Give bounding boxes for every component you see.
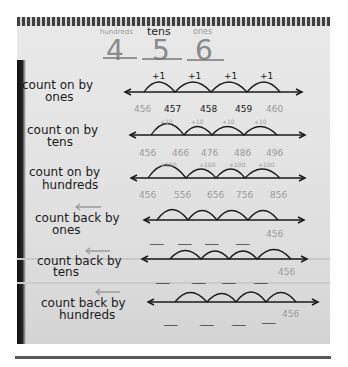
jump-label: +10 xyxy=(222,118,235,125)
jump-label: +10 xyxy=(191,118,204,125)
value: 457 xyxy=(164,104,181,114)
jump-arcs xyxy=(157,210,278,221)
row-label: tens xyxy=(47,135,73,149)
value: 456 xyxy=(282,309,299,319)
row-count-on-ones: count on by ones +1 +1 +1 +1 456 457 458… xyxy=(22,71,302,114)
row-label: count on by xyxy=(29,165,100,179)
blank: ___ xyxy=(177,235,192,245)
row-count-on-hundreds: count on by hundreds +100 +100 +100 +100… xyxy=(29,161,305,200)
blank: ___ xyxy=(149,235,164,245)
value: 656 xyxy=(207,190,224,200)
row-label: ones xyxy=(52,223,81,237)
jump-label: +10 xyxy=(160,118,173,125)
value: 456 xyxy=(266,229,283,239)
value: 486 xyxy=(234,148,251,158)
row-count-on-tens: count on by tens +10 +10 +10 +10 456 466… xyxy=(27,118,305,158)
value: 756 xyxy=(236,190,253,200)
jump-label: +1 xyxy=(224,71,237,81)
value: 556 xyxy=(174,190,191,200)
blank: ___ xyxy=(231,316,246,326)
value: 458 xyxy=(200,104,217,114)
jump-label: +100 xyxy=(258,161,275,168)
jump-arcs xyxy=(170,250,291,260)
blank: ___ xyxy=(261,314,276,324)
jump-label: +100 xyxy=(229,161,246,168)
jump-label: +1 xyxy=(152,71,165,81)
jump-arcs xyxy=(151,124,277,136)
value: 856 xyxy=(270,190,287,200)
blank: ___ xyxy=(155,274,170,284)
jump-arcs xyxy=(175,292,296,302)
number-lines: hundreds tens ones 4 5 6 count on by one… xyxy=(0,0,348,367)
jump-label: +100 xyxy=(160,161,177,168)
value: 466 xyxy=(172,148,189,158)
row-label: hundreds xyxy=(59,308,115,322)
place-value-header: hundreds tens ones 4 5 6 xyxy=(100,25,224,67)
anchor-chart-photo: hundreds tens ones 4 5 6 count on by one… xyxy=(0,0,348,367)
digit-ones: 6 xyxy=(195,34,213,67)
jump-label: +1 xyxy=(188,71,201,81)
digit-hundreds: 4 xyxy=(106,34,124,67)
jump-arcs xyxy=(144,82,280,92)
row-label: tens xyxy=(53,265,79,279)
row-label: ones xyxy=(45,90,74,104)
jump-label: +10 xyxy=(254,118,267,125)
blank: ___ xyxy=(199,316,214,326)
value: 456 xyxy=(139,190,156,200)
row-count-back-hundreds: count back by hundreds ___ ___ ___ ___ 4… xyxy=(41,289,318,326)
blank: ___ xyxy=(204,235,219,245)
value: 459 xyxy=(235,104,252,114)
blank: ___ xyxy=(221,274,236,284)
value: 456 xyxy=(134,104,151,114)
value: 476 xyxy=(201,148,218,158)
digit-tens: 5 xyxy=(152,34,170,67)
blank: ___ xyxy=(253,274,268,284)
blank: ___ xyxy=(235,235,250,245)
row-label: count back by xyxy=(37,254,122,268)
jump-label: +100 xyxy=(199,161,216,168)
row-label: hundreds xyxy=(42,178,98,192)
value: 496 xyxy=(266,148,283,158)
blank: ___ xyxy=(191,274,206,284)
blank: ___ xyxy=(163,316,178,326)
row-count-back-ones: count back by ones ___ ___ ___ ___ 456 xyxy=(35,204,304,245)
value: 460 xyxy=(266,104,283,114)
row-count-back-tens: count back by tens ___ ___ ___ ___ 456 xyxy=(37,248,307,284)
value: 456 xyxy=(139,148,156,158)
value: 456 xyxy=(278,267,295,277)
jump-label: +1 xyxy=(260,71,273,81)
